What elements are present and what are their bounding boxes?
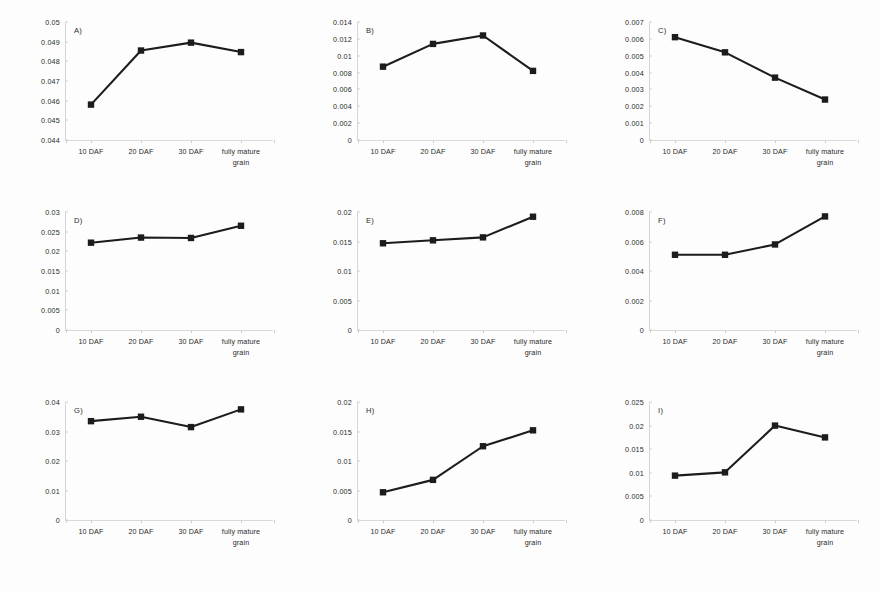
x-tick-label-line1: 10 DAF bbox=[79, 337, 104, 346]
x-tick-label-line1: 30 DAF bbox=[471, 527, 496, 536]
data-point-marker bbox=[88, 239, 94, 245]
x-tick-label-line2: grain bbox=[797, 347, 853, 358]
x-tick-label-group: 10 DAF20 DAF30 DAFfully maturegrain bbox=[60, 146, 285, 190]
x-tick-label-line1: 30 DAF bbox=[763, 527, 788, 536]
x-tick-label-line2: grain bbox=[797, 537, 853, 548]
data-point-marker bbox=[530, 68, 536, 74]
x-tick-label-line1: 30 DAF bbox=[179, 337, 204, 346]
series-line bbox=[675, 216, 825, 254]
x-tick-label: fully maturegrain bbox=[797, 146, 853, 168]
x-tick-label-line1: fully mature bbox=[514, 527, 552, 536]
x-tick-label-line1: 20 DAF bbox=[421, 527, 446, 536]
x-tick-label: 30 DAF bbox=[747, 146, 803, 157]
data-point-marker bbox=[380, 489, 386, 495]
x-tick-label: 20 DAF bbox=[405, 526, 461, 537]
x-tick-label: 20 DAF bbox=[113, 336, 169, 347]
series-line bbox=[675, 426, 825, 476]
x-tick-label: fully maturegrain bbox=[797, 336, 853, 358]
data-point-marker bbox=[822, 434, 828, 440]
x-tick-label: fully maturegrain bbox=[213, 336, 269, 358]
x-tick-label-line2: grain bbox=[505, 157, 561, 168]
data-point-marker bbox=[138, 414, 144, 420]
data-point-marker bbox=[822, 96, 828, 102]
x-tick-label: fully maturegrain bbox=[505, 146, 561, 168]
data-point-marker bbox=[430, 237, 436, 243]
series-line bbox=[675, 37, 825, 99]
x-tick-label-line1: fully mature bbox=[806, 337, 844, 346]
data-point-marker bbox=[188, 39, 194, 45]
series-line bbox=[383, 35, 533, 70]
data-point-marker bbox=[722, 49, 728, 55]
series-line bbox=[91, 226, 241, 243]
figure-panel-grid: 0.0440.0450.0460.0470.0480.0490.05A)10 D… bbox=[0, 0, 879, 591]
chart-panel-c: 00.0010.0020.0030.0040.0050.0060.007C)10… bbox=[584, 0, 877, 197]
x-tick-label: 10 DAF bbox=[355, 146, 411, 157]
series-line bbox=[383, 217, 533, 244]
data-point-marker bbox=[380, 240, 386, 246]
x-tick-label: fully maturegrain bbox=[213, 146, 269, 168]
x-tick-label-line1: 30 DAF bbox=[763, 337, 788, 346]
chart-panel-e: 00.0050.010.0150.02E)10 DAF20 DAF30 DAFf… bbox=[292, 190, 585, 387]
x-tick-label-line1: 20 DAF bbox=[713, 527, 738, 536]
x-tick-label: 10 DAF bbox=[355, 526, 411, 537]
x-tick-label: 10 DAF bbox=[63, 336, 119, 347]
x-tick-label-line1: 10 DAF bbox=[79, 147, 104, 156]
x-tick-label: 10 DAF bbox=[355, 336, 411, 347]
x-tick-label: 30 DAF bbox=[455, 526, 511, 537]
chart-panel-b: 00.0020.0040.0060.0080.010.0120.014B)10 … bbox=[292, 0, 585, 197]
x-tick-label-group: 10 DAF20 DAF30 DAFfully maturegrain bbox=[60, 336, 285, 380]
data-point-marker bbox=[88, 418, 94, 424]
data-point-marker bbox=[238, 223, 244, 229]
x-tick-label: 20 DAF bbox=[697, 526, 753, 537]
x-tick-label: fully maturegrain bbox=[213, 526, 269, 548]
x-tick-label-line1: fully mature bbox=[806, 527, 844, 536]
x-tick-label: 30 DAF bbox=[455, 336, 511, 347]
data-point-marker bbox=[480, 32, 486, 38]
data-point-marker bbox=[138, 234, 144, 240]
x-tick-label-line1: fully mature bbox=[222, 147, 260, 156]
x-tick-label: 20 DAF bbox=[405, 146, 461, 157]
x-tick-label: 20 DAF bbox=[113, 526, 169, 537]
x-tick-label-line1: 30 DAF bbox=[471, 147, 496, 156]
x-tick-label: fully maturegrain bbox=[797, 526, 853, 548]
x-tick-label: 30 DAF bbox=[163, 146, 219, 157]
data-point-marker bbox=[480, 443, 486, 449]
data-point-marker bbox=[722, 252, 728, 258]
x-tick-label-line1: 20 DAF bbox=[713, 147, 738, 156]
chart-panel-g: 00.010.020.030.04G)10 DAF20 DAF30 DAFful… bbox=[0, 380, 293, 577]
x-tick-label-line2: grain bbox=[505, 537, 561, 548]
x-tick-label: 10 DAF bbox=[63, 526, 119, 537]
series-line bbox=[91, 43, 241, 105]
chart-panel-d: 00.0050.010.0150.020.0250.03D)10 DAF20 D… bbox=[0, 190, 293, 387]
data-point-marker bbox=[138, 47, 144, 53]
x-tick-label: 20 DAF bbox=[697, 146, 753, 157]
x-tick-label-line1: 10 DAF bbox=[79, 527, 104, 536]
x-tick-label-line1: 10 DAF bbox=[663, 147, 688, 156]
data-point-marker bbox=[380, 63, 386, 69]
x-tick-label-line1: 20 DAF bbox=[421, 147, 446, 156]
data-point-marker bbox=[238, 406, 244, 412]
x-tick-label-line1: 30 DAF bbox=[471, 337, 496, 346]
x-tick-label-line2: grain bbox=[213, 157, 269, 168]
data-point-marker bbox=[480, 234, 486, 240]
x-tick-label-line1: 20 DAF bbox=[129, 147, 154, 156]
x-tick-label-group: 10 DAF20 DAF30 DAFfully maturegrain bbox=[352, 336, 577, 380]
data-point-marker bbox=[672, 34, 678, 40]
x-tick-label-line1: 20 DAF bbox=[129, 527, 154, 536]
x-tick-label: 20 DAF bbox=[113, 146, 169, 157]
x-tick-label: 10 DAF bbox=[647, 526, 703, 537]
x-tick-label: 20 DAF bbox=[405, 336, 461, 347]
data-point-marker bbox=[530, 214, 536, 220]
x-tick-label-group: 10 DAF20 DAF30 DAFfully maturegrain bbox=[644, 526, 869, 570]
x-tick-label-group: 10 DAF20 DAF30 DAFfully maturegrain bbox=[644, 146, 869, 190]
data-point-marker bbox=[722, 469, 728, 475]
chart-panel-f: 00.0020.0040.0060.008F)10 DAF20 DAF30 DA… bbox=[584, 190, 877, 387]
x-tick-label: 30 DAF bbox=[455, 146, 511, 157]
x-tick-label-line1: fully mature bbox=[806, 147, 844, 156]
x-tick-label-line1: fully mature bbox=[514, 337, 552, 346]
x-tick-label-line1: 10 DAF bbox=[371, 527, 396, 536]
x-tick-label: 30 DAF bbox=[747, 336, 803, 347]
x-tick-label: 30 DAF bbox=[747, 526, 803, 537]
data-point-marker bbox=[772, 74, 778, 80]
x-tick-label-line2: grain bbox=[797, 157, 853, 168]
